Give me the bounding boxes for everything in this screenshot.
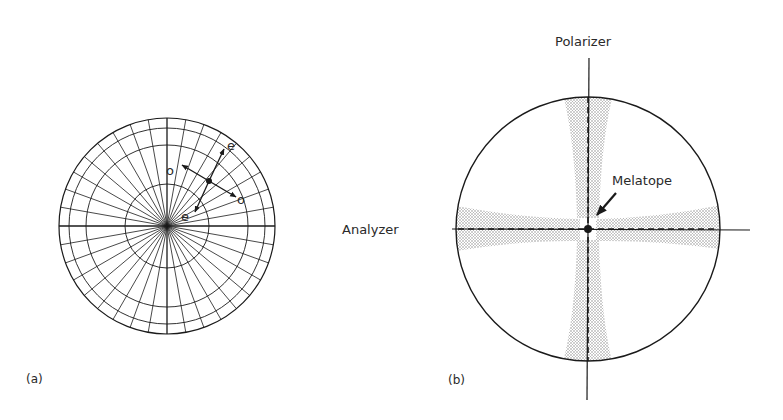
melatope-arrow — [597, 193, 616, 215]
o-arrow-lower — [209, 181, 236, 197]
label-e-upper: e — [227, 138, 235, 153]
isogyre-horizontal-right — [596, 204, 726, 250]
label-e-lower: e — [181, 209, 189, 224]
melatope-point — [584, 225, 592, 233]
figure-canvas: o e o e (a) Polarizer Analyzer Melatope … — [0, 0, 783, 420]
label-o-lower: o — [237, 192, 245, 207]
figure-a-polar-net — [59, 118, 275, 334]
ray-point — [206, 178, 212, 184]
label-melatope: Melatope — [612, 173, 672, 188]
label-o-upper: o — [166, 163, 174, 178]
label-polarizer: Polarizer — [555, 34, 612, 49]
panel-label-a: (a) — [26, 372, 43, 386]
e-arrow-upper — [209, 149, 224, 181]
label-analyzer: Analyzer — [342, 222, 399, 237]
panel-label-b: (b) — [448, 373, 465, 387]
